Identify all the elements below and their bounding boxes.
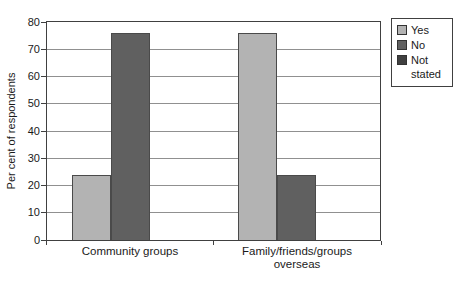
y-axis-tick-label-80: 80	[2, 16, 40, 29]
legend-label-yes: Yes	[411, 23, 429, 37]
gridline-30	[47, 158, 380, 159]
legend-item-not-stated: Not stated	[397, 53, 449, 81]
y-axis-tick	[41, 76, 46, 77]
y-axis-tick-label-60: 60	[2, 70, 40, 83]
no-bar-community-groups	[111, 33, 150, 240]
gridline-50	[47, 103, 380, 104]
category-label-family-friends-groups-overseas: Family/friends/groups overseas	[231, 245, 363, 271]
gridline-60	[47, 76, 380, 77]
y-axis-tick	[41, 49, 46, 50]
x-axis-tick	[46, 241, 47, 245]
y-axis-tick-label-30: 30	[2, 152, 40, 165]
gridline-70	[47, 49, 380, 50]
legend-swatch-yes	[397, 25, 407, 35]
y-axis-tick-label-20: 20	[2, 179, 40, 192]
category-label-community-groups: Community groups	[64, 245, 196, 258]
no-bar-family/friends/groups-overseas	[277, 175, 316, 240]
y-axis-tick-label-70: 70	[2, 43, 40, 56]
y-axis-tick	[41, 131, 46, 132]
y-axis-tick	[41, 158, 46, 159]
y-axis-tick	[41, 185, 46, 186]
legend: Yes No Not stated	[391, 18, 453, 87]
x-axis-tick	[213, 241, 214, 245]
legend-item-yes: Yes	[397, 23, 449, 37]
legend-item-no: No	[397, 38, 449, 52]
x-axis-tick	[381, 241, 382, 245]
y-axis-tick	[41, 212, 46, 213]
legend-swatch-no	[397, 40, 407, 50]
gridline-40	[47, 131, 380, 132]
legend-label-not-stated: Not stated	[411, 53, 449, 81]
y-axis-tick-label-40: 40	[2, 125, 40, 138]
y-axis-tick-label-0: 0	[2, 234, 40, 247]
yes-bar-community-groups	[72, 175, 111, 240]
yes-bar-family/friends/groups-overseas	[238, 33, 277, 240]
plot-area	[46, 21, 381, 241]
bar-chart-figure: Per cent of respondents 0102030405060708…	[0, 0, 458, 286]
y-axis-tick-label-50: 50	[2, 97, 40, 110]
y-axis-tick-label-10: 10	[2, 206, 40, 219]
legend-swatch-not-stated	[397, 55, 407, 65]
y-axis-tick	[41, 103, 46, 104]
legend-label-no: No	[411, 38, 425, 52]
y-axis-tick	[41, 22, 46, 23]
